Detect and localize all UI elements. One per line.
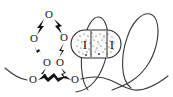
atom-label-o-lower-right: O (56, 56, 64, 68)
atom-label-o-upper-left: O (30, 32, 38, 44)
figure-root: O O O O O O O (0, 0, 173, 97)
bond-zigzag-1 (37, 19, 44, 35)
capsule-label-left: I (83, 37, 87, 52)
thread-left-tail (5, 68, 27, 80)
atom-label-o-top: O (45, 8, 53, 20)
atom-label-o-lower-left: O (43, 56, 51, 68)
thread-left-tail-path (5, 68, 27, 80)
supramolecular-diagram: O O O O O O O (0, 0, 173, 97)
atom-label-o-chain-left: O (29, 73, 37, 85)
atom-label-o-chain-right: O (71, 73, 79, 85)
stippled-capsule: I I (71, 30, 121, 58)
bond-zigzag-3 (34, 44, 43, 58)
atom-label-o-upper-right: O (60, 31, 68, 43)
bond-zigzag-7 (38, 73, 71, 82)
capsule-label-right: I (110, 37, 114, 52)
